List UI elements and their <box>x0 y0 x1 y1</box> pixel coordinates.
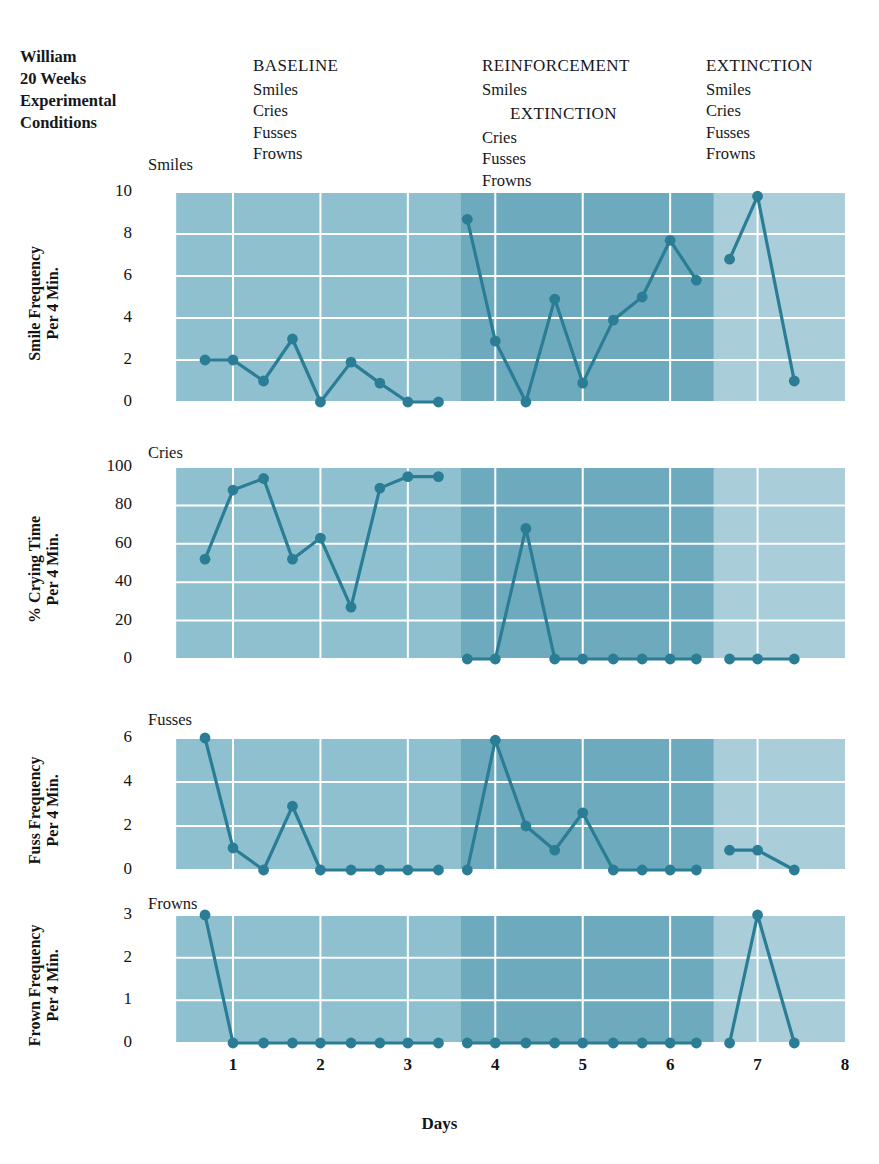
data-point <box>433 865 444 876</box>
y-tick-label: 2 <box>88 947 132 967</box>
data-point <box>287 334 298 345</box>
y-tick-label: 3 <box>88 904 132 924</box>
data-point <box>724 1038 735 1049</box>
data-point <box>608 315 619 326</box>
data-point <box>374 483 385 494</box>
data-point <box>346 357 357 368</box>
phase-items-extinction: Smiles Cries Fusses Frowns <box>706 79 756 165</box>
data-point <box>200 554 211 565</box>
data-point <box>665 1038 676 1049</box>
panel-label-fusses: Fusses <box>148 710 192 730</box>
panel-cries <box>176 467 845 664</box>
data-point <box>691 654 702 665</box>
data-point <box>752 910 763 921</box>
data-point <box>724 254 735 265</box>
data-point <box>200 733 211 744</box>
data-point <box>752 191 763 202</box>
x-tick-label: 2 <box>305 1055 335 1075</box>
data-point <box>433 471 444 482</box>
phase-band-baseline <box>176 467 460 659</box>
y-tick-label: 2 <box>88 349 132 369</box>
y-tick-label: 40 <box>88 571 132 591</box>
y-tick-label: 2 <box>88 815 132 835</box>
y-tick-label: 6 <box>88 265 132 285</box>
phase-heading-baseline: BASELINE <box>253 55 338 77</box>
data-point <box>200 355 211 366</box>
phase-items-baseline: Smiles Cries Fusses Frowns <box>253 79 303 165</box>
y-tick-label: 4 <box>88 771 132 791</box>
data-point <box>577 654 588 665</box>
y-axis-title-frowns: Frown Frequency Per 4 Min. <box>26 876 63 1094</box>
data-point <box>752 654 763 665</box>
y-tick-label: 20 <box>88 610 132 630</box>
phase-heading-reinforcement-extinction: EXTINCTION <box>510 103 617 125</box>
data-point <box>665 235 676 246</box>
data-point <box>691 275 702 286</box>
panel-fusses <box>176 733 845 876</box>
data-point <box>287 801 298 812</box>
data-point <box>549 294 560 305</box>
data-point <box>520 821 531 832</box>
data-point <box>490 735 501 746</box>
y-axis-title-cries: % Crying Time Per 4 Min. <box>26 428 63 710</box>
data-point <box>549 1038 560 1049</box>
data-point <box>691 865 702 876</box>
data-point <box>402 1038 413 1049</box>
data-point <box>549 845 560 856</box>
data-point <box>637 654 648 665</box>
y-tick-label: 1 <box>88 989 132 1009</box>
y-tick-label: 80 <box>88 494 132 514</box>
phase-band-reinforcement <box>460 467 714 659</box>
data-point <box>287 1038 298 1049</box>
y-tick-label: 10 <box>88 181 132 201</box>
data-point <box>402 471 413 482</box>
data-point <box>577 378 588 389</box>
data-point <box>200 910 211 921</box>
phase-items-reinforcement: Cries Fusses Frowns <box>482 127 532 191</box>
y-tick-label: 0 <box>88 859 132 879</box>
data-point <box>490 1038 501 1049</box>
data-point <box>665 865 676 876</box>
data-point <box>665 654 676 665</box>
phase-band-baseline <box>176 738 460 870</box>
data-point <box>258 865 269 876</box>
data-point <box>549 654 560 665</box>
data-point <box>315 865 326 876</box>
data-point <box>520 523 531 534</box>
x-tick-label: 1 <box>218 1055 248 1075</box>
panel-smiles <box>176 191 845 408</box>
y-tick-label: 0 <box>88 391 132 411</box>
subject-name: William <box>20 47 77 66</box>
data-point <box>433 1038 444 1049</box>
data-point <box>228 1038 239 1049</box>
data-point <box>402 397 413 408</box>
phase-band-reinforcement <box>460 738 714 870</box>
panel-label-cries: Cries <box>148 443 183 463</box>
data-point <box>724 845 735 856</box>
data-point <box>462 1038 473 1049</box>
data-point <box>577 807 588 818</box>
data-point <box>374 1038 385 1049</box>
data-point <box>520 1038 531 1049</box>
data-point <box>691 1038 702 1049</box>
x-tick-label: 5 <box>568 1055 598 1075</box>
data-point <box>520 397 531 408</box>
y-tick-label: 60 <box>88 533 132 553</box>
data-point <box>490 654 501 665</box>
data-point <box>228 355 239 366</box>
subject-info: William20 WeeksExperimentalConditions <box>20 46 116 134</box>
subject-cond-line2: Conditions <box>20 113 97 132</box>
data-point <box>490 336 501 347</box>
data-point <box>374 378 385 389</box>
data-point <box>258 1038 269 1049</box>
data-point <box>637 865 648 876</box>
x-axis-title: Days <box>0 1114 879 1134</box>
phase-heading-reinforcement: REINFORCEMENT <box>482 55 630 77</box>
data-point <box>637 1038 648 1049</box>
y-tick-label: 100 <box>88 456 132 476</box>
data-point <box>433 397 444 408</box>
data-point <box>228 485 239 496</box>
data-point <box>789 654 800 665</box>
subject-age: 20 Weeks <box>20 69 86 88</box>
data-point <box>346 865 357 876</box>
